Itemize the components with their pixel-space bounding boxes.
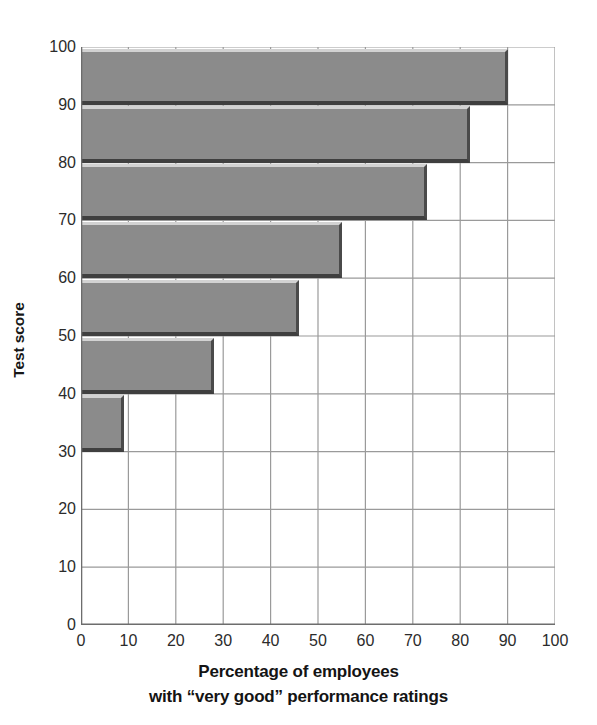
plot-area bbox=[81, 47, 555, 625]
bar bbox=[81, 164, 427, 220]
chart-figure: Test score 0102030405060708090100 010203… bbox=[0, 0, 597, 725]
bar bbox=[81, 222, 342, 278]
bar bbox=[81, 49, 508, 105]
bar bbox=[81, 280, 299, 336]
bar bbox=[81, 338, 214, 394]
x-axis-title-line2: with “very good” performance ratings bbox=[0, 685, 597, 710]
x-axis-title: Percentage of employees with “very good”… bbox=[0, 660, 597, 709]
x-axis-title-line1: Percentage of employees bbox=[0, 660, 597, 685]
bars-layer bbox=[81, 47, 555, 625]
x-tick-label: 100 bbox=[525, 633, 585, 649]
bar bbox=[81, 106, 470, 162]
bar bbox=[81, 395, 124, 451]
